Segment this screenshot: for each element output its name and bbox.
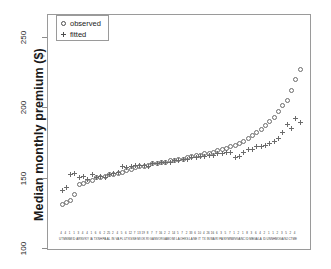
fitted-point (280, 130, 285, 135)
chart-figure: Median monthly premium ($) 100150200250 … (0, 0, 331, 269)
chart-legend: observed fitted (56, 15, 109, 41)
fitted-point (228, 150, 233, 155)
y-tick-label: 250 (18, 23, 29, 53)
observed-point (280, 103, 285, 108)
fitted-point (298, 120, 303, 125)
observed-point (285, 98, 290, 103)
plot-frame (47, 14, 311, 250)
fitted-point (289, 126, 294, 131)
observed-point (72, 192, 77, 197)
y-tick-label: 100 (18, 234, 29, 264)
observed-point (267, 119, 272, 124)
observed-point (293, 77, 298, 82)
x-axis-label (296, 231, 303, 233)
plot-area (48, 15, 310, 249)
y-tick-label: 200 (18, 93, 29, 123)
fitted-point (64, 185, 69, 190)
plus-marker-icon (60, 31, 67, 38)
x-axis-labels: 4UT4MS1NM1ID3AR4NV4KY1IA6TX6NH2PA25AL2IN… (47, 231, 311, 249)
observed-point (289, 88, 294, 93)
legend-label-observed: observed (70, 19, 101, 28)
legend-item-observed: observed (60, 18, 108, 29)
observed-point (263, 123, 268, 128)
observed-point (276, 109, 281, 114)
observed-point (68, 198, 73, 203)
fitted-point (276, 136, 281, 141)
circle-marker-icon (60, 20, 67, 27)
legend-label-fitted: fitted (70, 30, 86, 39)
observed-point (272, 115, 277, 120)
legend-item-fitted: fitted (60, 29, 108, 40)
fitted-point (116, 170, 121, 175)
observed-point (259, 127, 264, 132)
observed-point (298, 67, 303, 72)
x-axis-label-abbrev: ME (291, 237, 298, 241)
y-tick-label: 150 (18, 163, 29, 193)
